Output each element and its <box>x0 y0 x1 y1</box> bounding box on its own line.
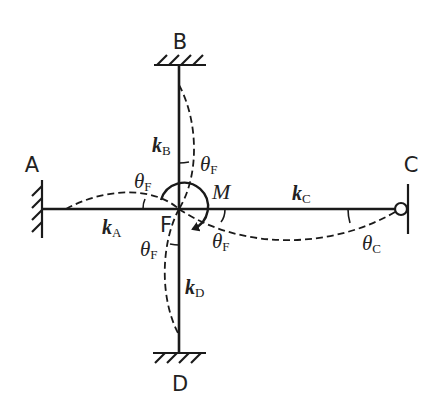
members <box>42 65 395 353</box>
angle-arc-c <box>348 209 350 223</box>
node-label-f: F <box>160 213 172 237</box>
moment-label: M <box>211 179 232 204</box>
angle-arc-d <box>170 244 179 245</box>
support-a-fixed <box>32 180 42 238</box>
node-label-c: C <box>404 153 419 177</box>
stiffness-label-a: kA <box>102 216 122 240</box>
angle-arc-c-at-f <box>221 209 225 222</box>
deflection-fb <box>179 85 194 209</box>
theta-f-label-d: θF <box>140 237 158 262</box>
angle-arcs <box>143 162 350 245</box>
node-label-a: A <box>25 153 40 177</box>
stiffness-label-d: kD <box>185 276 204 300</box>
support-c-pin <box>395 184 408 234</box>
theta-f-label-a: θF <box>134 169 152 194</box>
frame-diagram: A B C D F kB kA kC kD M θF θF θF θF θC <box>0 0 435 415</box>
node-label-b: B <box>173 30 187 54</box>
theta-c-label: θC <box>362 231 381 256</box>
support-d-fixed <box>153 353 206 363</box>
pin-circle <box>395 203 407 215</box>
theta-f-label-c: θF <box>212 229 230 254</box>
angle-arc-a <box>143 199 145 209</box>
stiffness-label-b: kB <box>152 134 171 158</box>
theta-f-label-b: θF <box>200 152 218 177</box>
stiffness-label-c: kC <box>292 182 311 206</box>
angle-arc-b <box>179 162 189 163</box>
node-label-d: D <box>172 372 188 396</box>
support-b-fixed <box>154 55 206 65</box>
